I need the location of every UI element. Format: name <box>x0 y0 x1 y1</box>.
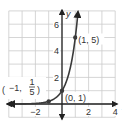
point-label-0-1: (0, 1) <box>65 93 86 103</box>
x-tick-label: 2 <box>86 107 91 117</box>
svg-text:): ) <box>37 85 40 95</box>
x-tick-label: −2 <box>30 107 40 117</box>
svg-text:(: ( <box>2 85 5 95</box>
svg-text:−1,: −1, <box>9 83 22 93</box>
data-point <box>60 89 64 93</box>
svg-text:1: 1 <box>29 77 34 87</box>
y-tick-label: 2 <box>54 73 59 83</box>
y-tick-label: 4 <box>54 46 59 56</box>
data-point <box>47 99 51 103</box>
exponential-graph: xy−224246(1, 5)(0, 1)(−1,15) <box>0 0 128 130</box>
svg-text:5: 5 <box>29 87 34 97</box>
data-point <box>73 35 77 39</box>
y-tick-label: 6 <box>54 20 59 30</box>
axes <box>7 10 117 119</box>
x-tick-label: 4 <box>113 107 118 117</box>
point-label-1-5: (1, 5) <box>78 35 99 45</box>
y-axis-label: y <box>65 9 71 19</box>
